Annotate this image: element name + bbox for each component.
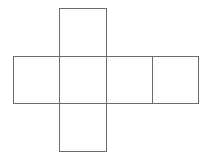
cube-face-right xyxy=(107,57,153,104)
cube-face-far-right xyxy=(153,57,199,104)
cube-face-top xyxy=(60,9,107,57)
cube-face-left xyxy=(14,57,60,104)
cube-face-bottom xyxy=(60,104,107,152)
cube-face-center xyxy=(60,57,107,104)
cube-net-diagram xyxy=(0,0,206,157)
